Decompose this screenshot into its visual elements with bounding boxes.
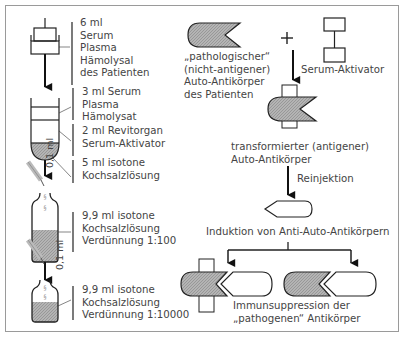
- branch-arrows: [228, 242, 351, 250]
- serum-activator-icon: [324, 18, 345, 62]
- label-transfer2: 0,1 ml: [54, 240, 67, 270]
- svg-text:§: §: [44, 193, 47, 200]
- label-step1: 6 ml Serum Plasma Hämolysal des Patiente…: [80, 17, 149, 80]
- label-step2c: 5 ml isotone Kochsalzlösung: [82, 157, 160, 182]
- label-transformed: transformierter (antigener) Auto-Antikör…: [231, 141, 369, 166]
- svg-text:§: §: [44, 293, 47, 300]
- label-step2b: 2 ml Revitorgan Serum-Aktivator: [82, 125, 165, 150]
- bracket-icon: [59, 22, 72, 85]
- antibody-transformed-icon: [268, 85, 316, 128]
- label-step2a: 3 ml Serum Plasma Hämolysat: [82, 86, 141, 124]
- flask-icon: § §: [32, 280, 58, 322]
- label-serum-activator: Serum-Aktivator: [301, 64, 384, 77]
- label-reinjection: Reinjektion: [297, 173, 354, 186]
- anti-antibody-icon: [265, 201, 312, 217]
- label-induction: Induktion von Anti-Auto-Antikörpern: [206, 226, 389, 239]
- antibody-complex-icon: [284, 272, 376, 296]
- pipette-icon: [28, 162, 44, 186]
- bracket-icon: [52, 88, 73, 183]
- bracket-icon: [58, 286, 73, 320]
- syringe-icon: [31, 18, 59, 54]
- antibody-pathologic-icon: [188, 23, 240, 47]
- label-suppression: Immunsuppression der „pathogenen“ Antikö…: [233, 300, 361, 325]
- label-step3: 9,9 ml isotone Kochsalzlösung Verdünnung…: [82, 210, 176, 248]
- plus-icon: [281, 32, 293, 44]
- svg-text:§: §: [44, 284, 47, 291]
- label-transfer1: 0,1 ml: [44, 138, 57, 168]
- label-pathologic-antibody: „pathologischer“ (nicht-antigener) Auto-…: [184, 51, 270, 101]
- label-step4: 9,9 ml isotone Kochsalzlösung Verdünnung…: [82, 284, 189, 322]
- svg-text:§: §: [44, 204, 47, 211]
